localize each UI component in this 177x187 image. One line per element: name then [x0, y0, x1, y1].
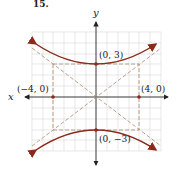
y-axis-label: y [92, 7, 99, 18]
point-left [51, 95, 55, 99]
label-top-vertex: (0, 3) [99, 50, 123, 60]
hyperbola-graph: 15. x y (0, 3) (0, −3) (−4, 0) (4, 0 [0, 0, 177, 187]
vertex-bottom [94, 128, 98, 132]
vertex-top [94, 62, 98, 66]
label-left-point: (−4, 0) [17, 84, 49, 94]
problem-number: 15. [33, 0, 49, 9]
point-right [137, 95, 141, 99]
label-right-point: (4, 0) [141, 84, 165, 94]
label-bottom-vertex: (0, −3) [99, 134, 131, 144]
x-axis-label: x [8, 91, 14, 102]
